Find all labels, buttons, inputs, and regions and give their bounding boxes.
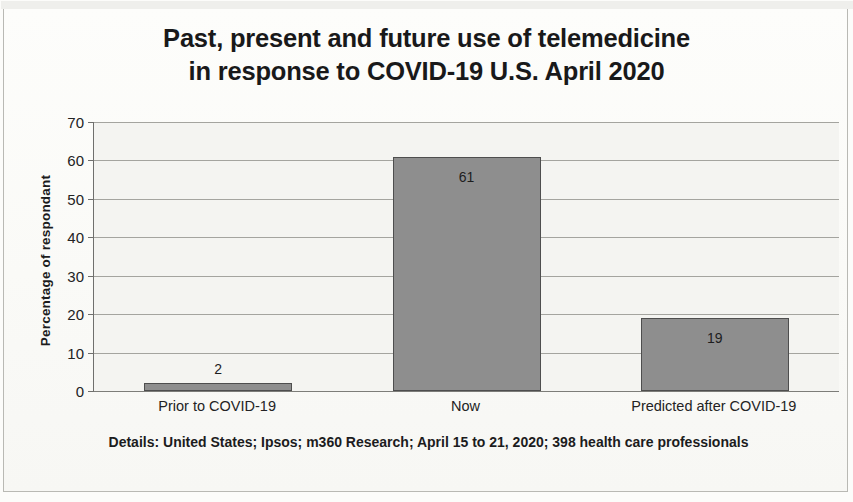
y-tickmark-30 — [88, 276, 94, 277]
footnote-line-1: Details: United States; Ipsos; m360 Rese… — [109, 434, 654, 450]
y-tick-label-0: 0 — [40, 383, 84, 400]
x-axis-label-2: Now — [451, 398, 480, 414]
gridline-0 — [94, 391, 839, 392]
y-tick-label-60: 60 — [40, 152, 84, 169]
y-tickmark-20 — [88, 314, 94, 315]
y-tick-label-10: 10 — [40, 344, 84, 361]
y-tick-label-40: 40 — [40, 229, 84, 246]
y-tickmark-70 — [88, 122, 94, 123]
x-axis-label-1: Prior to COVID-19 — [158, 398, 276, 414]
y-tick-label-20: 20 — [40, 306, 84, 323]
bar-value-label-2: 61 — [459, 169, 475, 185]
chart-plot-wrapper: Percentage of respondant 010203040506070… — [0, 0, 853, 502]
chart-footnote: Details: United States; Ipsos; m360 Rese… — [106, 432, 751, 453]
y-tickmark-10 — [88, 353, 94, 354]
y-tick-label-70: 70 — [40, 114, 84, 131]
y-tickmark-60 — [88, 160, 94, 161]
y-tickmark-50 — [88, 199, 94, 200]
gridline-70 — [94, 122, 839, 123]
y-tick-label-50: 50 — [40, 190, 84, 207]
bar-1[interactable] — [144, 383, 292, 391]
chart-page: Past, present and future use of telemedi… — [0, 0, 853, 502]
x-axis-tick-labels: Prior to COVID-19NowPredicted after COVI… — [93, 398, 838, 422]
footnote-line-2: professionals — [657, 434, 748, 450]
y-tickmark-0 — [88, 391, 94, 392]
y-tick-label-30: 30 — [40, 267, 84, 284]
bar-3[interactable] — [641, 318, 789, 391]
plot-area: 26119 — [93, 122, 839, 391]
bar-value-label-1: 2 — [214, 361, 222, 377]
y-tickmark-40 — [88, 237, 94, 238]
bar-value-label-3: 19 — [707, 330, 723, 346]
y-axis-tick-labels: 010203040506070 — [40, 112, 84, 392]
x-axis-label-3: Predicted after COVID-19 — [631, 398, 796, 414]
bar-2[interactable] — [393, 157, 541, 391]
